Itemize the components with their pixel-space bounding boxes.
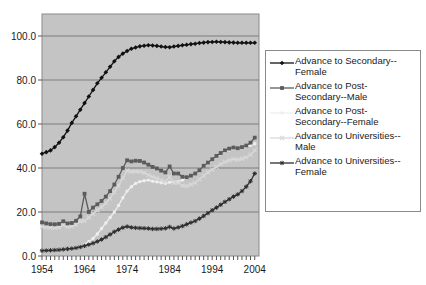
- data-point-marker: [57, 248, 61, 252]
- data-point-marker: [249, 141, 253, 145]
- data-point-marker: [74, 246, 78, 250]
- data-point-marker: [125, 189, 128, 192]
- data-point-marker: [142, 179, 145, 182]
- data-point-marker: [108, 232, 112, 236]
- data-point-marker: [87, 210, 91, 214]
- legend-entry-3[interactable]: Advance to Universities-- Male: [266, 130, 420, 152]
- data-point-marker: [159, 169, 163, 173]
- data-point-marker: [125, 224, 129, 228]
- y-axis-tick-label: 40.0: [17, 163, 37, 174]
- data-point-marker: [87, 242, 91, 246]
- data-point-marker: [117, 204, 120, 207]
- data-point-marker: [215, 154, 219, 158]
- data-point-marker: [223, 200, 227, 204]
- legend-entry-2[interactable]: Advance to Post- Secondary--Female: [266, 105, 420, 127]
- data-point-marker: [49, 222, 53, 226]
- data-point-marker: [104, 195, 108, 199]
- data-point-marker: [91, 241, 95, 245]
- data-point-marker: [210, 157, 214, 161]
- data-point-marker: [104, 235, 108, 239]
- data-point-marker: [108, 189, 112, 193]
- data-point-marker: [44, 248, 48, 252]
- legend-entry-0[interactable]: Advance to Secondary-- Female: [266, 55, 420, 77]
- legend-label: Advance to Secondary-- Female: [295, 55, 418, 77]
- chart-container: 0.020.040.060.080.0100.01954196419741984…: [0, 0, 426, 285]
- data-point-marker: [70, 221, 74, 225]
- data-point-marker: [61, 219, 65, 223]
- data-point-marker: [172, 226, 176, 230]
- legend-marker-dot-icon: [269, 107, 295, 119]
- data-point-marker: [112, 230, 116, 234]
- data-point-marker: [78, 215, 82, 219]
- legend-marker-star-icon: [269, 157, 295, 169]
- data-point-marker: [142, 226, 146, 230]
- data-point-marker: [151, 165, 155, 169]
- data-point-marker: [117, 175, 121, 179]
- data-point-marker: [116, 227, 120, 231]
- data-point-marker: [129, 225, 133, 229]
- data-point-marker: [172, 172, 176, 176]
- legend-label: Advance to Post- Secondary--Male: [295, 80, 418, 102]
- data-point-marker: [236, 192, 240, 196]
- data-point-marker: [91, 206, 95, 210]
- data-point-marker: [176, 225, 180, 229]
- legend-entry-1[interactable]: Advance to Post- Secondary--Male: [266, 80, 420, 102]
- x-axis-tick-label: 1994: [201, 264, 224, 275]
- data-point-marker: [74, 219, 78, 223]
- data-point-marker: [125, 158, 129, 162]
- data-point-marker: [91, 237, 94, 240]
- data-point-marker: [146, 163, 150, 167]
- x-axis-tick-label: 1964: [73, 264, 96, 275]
- data-point-marker: [96, 232, 99, 235]
- data-point-marker: [189, 220, 193, 224]
- data-point-marker: [253, 142, 256, 145]
- data-point-marker: [168, 181, 171, 184]
- data-point-marker: [53, 222, 57, 226]
- data-point-marker: [138, 226, 142, 230]
- x-axis-tick-label: 2004: [244, 264, 267, 275]
- data-point-marker: [83, 192, 87, 196]
- y-axis-tick-label: 80.0: [17, 75, 37, 86]
- data-point-marker: [231, 194, 235, 198]
- data-point-marker: [193, 219, 197, 223]
- data-point-marker: [240, 145, 244, 149]
- data-point-marker: [227, 147, 231, 151]
- data-point-marker: [198, 168, 202, 172]
- data-point-marker: [181, 175, 185, 179]
- data-point-marker: [214, 205, 218, 209]
- data-point-marker: [61, 247, 65, 251]
- data-point-marker: [78, 245, 82, 249]
- data-point-marker: [223, 149, 227, 153]
- data-point-marker: [134, 159, 138, 163]
- data-point-marker: [57, 222, 61, 226]
- data-point-marker: [210, 208, 214, 212]
- legend-entry-4[interactable]: Advance to Universities-- Female: [266, 155, 420, 177]
- legend-marker-x-icon: [269, 132, 295, 144]
- data-point-marker: [193, 172, 197, 176]
- data-point-marker: [104, 221, 107, 224]
- data-point-marker: [100, 227, 103, 230]
- y-axis-tick-label: 100.0: [11, 31, 36, 42]
- data-point-marker: [280, 161, 284, 165]
- data-point-marker: [121, 166, 125, 170]
- data-point-marker: [130, 185, 133, 188]
- data-point-marker: [121, 225, 125, 229]
- data-point-marker: [176, 172, 180, 176]
- data-point-marker: [201, 214, 205, 218]
- data-point-marker: [142, 161, 146, 165]
- y-axis-tick-label: 20.0: [17, 207, 37, 218]
- data-point-marker: [244, 144, 248, 148]
- data-point-marker: [100, 199, 104, 203]
- legend-label: Advance to Universities-- Female: [295, 155, 418, 177]
- data-point-marker: [163, 171, 167, 175]
- y-axis-tick-label: 60.0: [17, 119, 37, 130]
- data-point-marker: [40, 249, 44, 253]
- data-point-marker: [82, 244, 86, 248]
- x-axis-tick-label: 1974: [116, 264, 139, 275]
- data-point-marker: [240, 189, 244, 193]
- data-point-marker: [146, 226, 150, 230]
- data-point-marker: [99, 237, 103, 241]
- data-point-marker: [134, 182, 137, 185]
- data-point-marker: [151, 180, 154, 183]
- data-point-marker: [197, 216, 201, 220]
